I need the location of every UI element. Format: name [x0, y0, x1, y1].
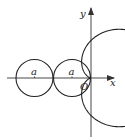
x-axis-label: x: [110, 77, 116, 88]
left-circle-label: a: [31, 66, 37, 77]
right-circle-label: a: [69, 66, 75, 77]
diagram-canvas: a a O x y: [0, 0, 125, 140]
origin-label: O: [80, 81, 88, 92]
y-axis-label: y: [79, 8, 86, 19]
